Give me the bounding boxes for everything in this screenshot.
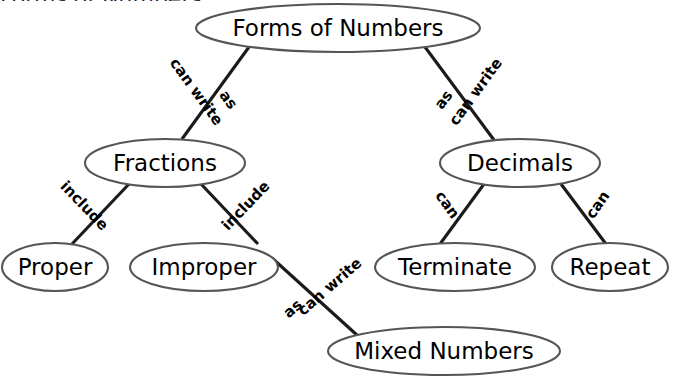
forms-of-numbers-concept-map: Forms of NumbersFractionsDecimalsProperI… (0, 0, 673, 388)
concept-map-canvas: Forms of Numbers. Forms of NumbersFracti… (0, 0, 673, 388)
cut-off-page-heading: Forms of Numbers. (0, 0, 209, 1)
node-mixed[interactable]: Mixed Numbers (328, 327, 560, 375)
node-label-improper: Improper (151, 254, 257, 280)
node-label-decimals: Decimals (467, 150, 573, 176)
node-label-mixed: Mixed Numbers (354, 338, 534, 364)
node-label-terminate: Terminate (397, 254, 512, 280)
nodes-layer: Forms of NumbersFractionsDecimalsProperI… (2, 4, 668, 375)
node-terminate[interactable]: Terminate (375, 243, 535, 291)
node-improper[interactable]: Improper (130, 243, 278, 291)
node-forms[interactable]: Forms of Numbers (196, 4, 480, 52)
node-label-repeat: Repeat (570, 254, 651, 280)
edge-labels-layer: can writeascan writeasincludeincludecanc… (57, 55, 614, 322)
node-proper[interactable]: Proper (2, 243, 108, 291)
node-fractions[interactable]: Fractions (85, 139, 245, 187)
node-label-forms: Forms of Numbers (232, 15, 443, 41)
edge-label-fractions-proper-0: include (57, 177, 113, 234)
node-repeat[interactable]: Repeat (552, 243, 668, 291)
edge-label-fractions-improper-0: include (218, 177, 274, 234)
node-label-fractions: Fractions (113, 150, 217, 176)
node-decimals[interactable]: Decimals (440, 139, 600, 187)
edges-layer (72, 47, 606, 336)
node-label-proper: Proper (18, 254, 93, 280)
